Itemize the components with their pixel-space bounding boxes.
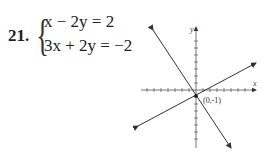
line-3x-plus-2y xyxy=(153,30,231,148)
intersection-point xyxy=(194,94,198,98)
x-axis-label: x xyxy=(252,79,257,88)
y-axis-label: y xyxy=(189,25,194,34)
line-x-minus-2y xyxy=(138,63,256,126)
coordinate-graph: y x (0,-1) xyxy=(0,0,267,158)
intersection-label: (0,-1) xyxy=(203,96,221,105)
